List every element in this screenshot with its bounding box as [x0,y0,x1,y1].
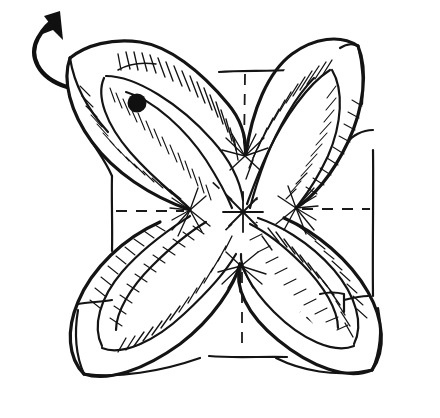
reference-point-dot [128,94,147,113]
origami-diagram-canvas: Origami step: square base with four peta… [0,0,440,418]
center-crease-intersection [223,192,263,232]
origami-diagram-figure: Origami step: square base with four peta… [0,0,440,418]
square-edge-bottom [209,356,287,357]
